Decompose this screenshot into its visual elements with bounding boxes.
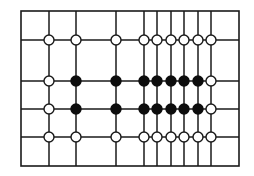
open-node-icon	[139, 35, 149, 45]
background	[0, 0, 254, 176]
open-node-icon	[111, 132, 121, 142]
filled-node-icon	[152, 76, 162, 86]
open-node-icon	[111, 35, 121, 45]
filled-node-icon	[179, 104, 189, 114]
open-node-icon	[179, 132, 189, 142]
open-node-icon	[152, 132, 162, 142]
open-node-icon	[193, 35, 203, 45]
filled-node-icon	[139, 76, 149, 86]
filled-node-icon	[166, 76, 176, 86]
open-node-icon	[71, 35, 81, 45]
filled-node-icon	[166, 104, 176, 114]
filled-node-icon	[179, 76, 189, 86]
open-node-icon	[152, 35, 162, 45]
open-node-icon	[166, 35, 176, 45]
open-node-icon	[206, 35, 216, 45]
filled-node-icon	[152, 104, 162, 114]
open-node-icon	[193, 132, 203, 142]
open-node-icon	[71, 132, 81, 142]
filled-node-icon	[111, 104, 121, 114]
filled-node-icon	[111, 76, 121, 86]
open-node-icon	[166, 132, 176, 142]
open-node-icon	[179, 35, 189, 45]
open-node-icon	[206, 104, 216, 114]
open-node-icon	[44, 104, 54, 114]
open-node-icon	[44, 76, 54, 86]
filled-node-icon	[193, 76, 203, 86]
filled-node-icon	[71, 76, 81, 86]
open-node-icon	[44, 132, 54, 142]
filled-node-icon	[71, 104, 81, 114]
filled-node-icon	[139, 104, 149, 114]
open-node-icon	[206, 76, 216, 86]
open-node-icon	[139, 132, 149, 142]
diagram-canvas	[0, 0, 254, 176]
open-node-icon	[206, 132, 216, 142]
filled-node-icon	[193, 104, 203, 114]
grid-node-diagram	[0, 0, 254, 176]
open-node-icon	[44, 35, 54, 45]
